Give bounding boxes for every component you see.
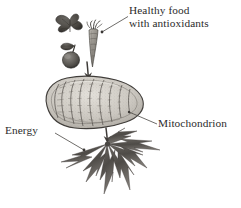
apple-icon — [61, 43, 80, 68]
label-energy: Energy — [5, 124, 38, 137]
biology-diagram — [0, 0, 241, 208]
leader-line-energy — [55, 133, 85, 151]
label-healthy-food-line2: with antioxidants — [129, 17, 209, 30]
label-mitochondrion: Mitochondrion — [158, 117, 227, 130]
mitochondrion-icon — [46, 76, 143, 128]
carrot-icon — [87, 20, 102, 67]
label-healthy-food-line1: Healthy food — [129, 4, 209, 17]
energy-burst-icon — [61, 128, 160, 194]
figure-canvas: Healthy food with antioxidants Mitochond… — [0, 0, 241, 208]
leader-line-healthy-food — [101, 17, 128, 34]
leafy-greens-icon — [56, 14, 83, 32]
label-healthy-food: Healthy food with antioxidants — [129, 4, 209, 29]
